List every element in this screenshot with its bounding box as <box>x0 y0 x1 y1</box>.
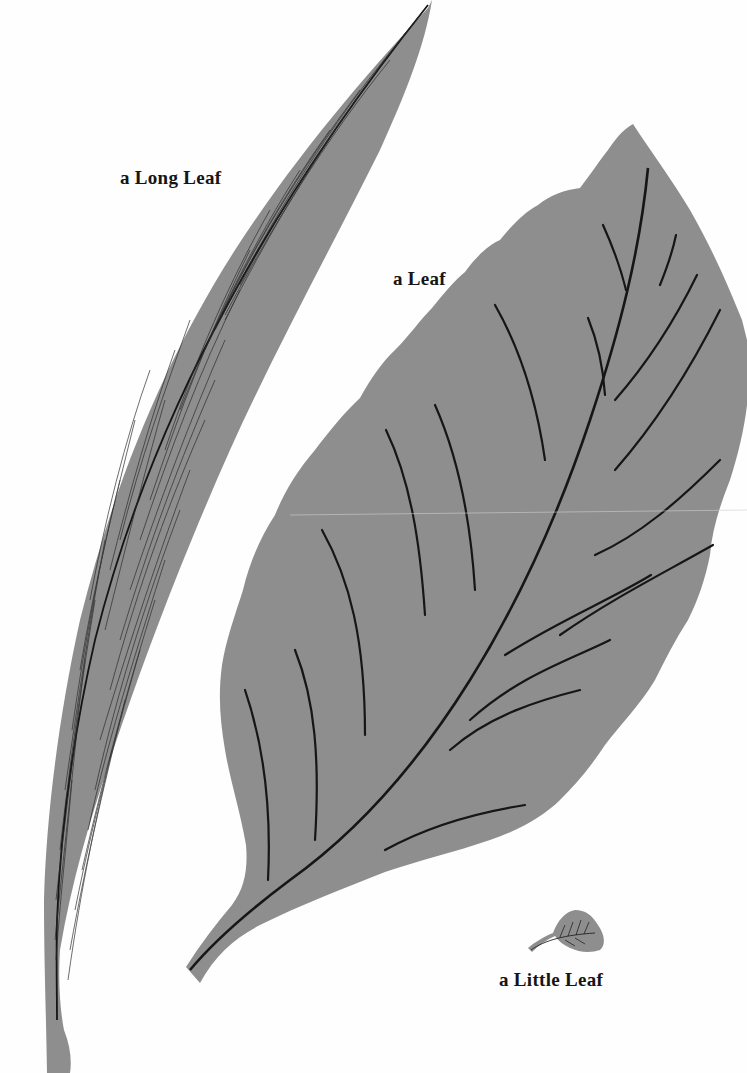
caption-little-leaf: a Little Leaf <box>499 970 603 989</box>
leaf-illustrations <box>0 0 747 1073</box>
caption-leaf: a Leaf <box>393 269 446 288</box>
little-leaf-illustration <box>528 910 604 952</box>
caption-long-leaf: a Long Leaf <box>120 168 221 187</box>
book-page: a Long Leaf a Leaf a Little Leaf <box>0 0 747 1073</box>
